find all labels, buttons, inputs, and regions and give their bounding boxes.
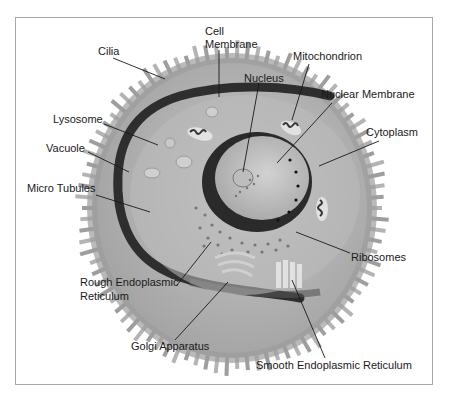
label-vacuole: Vacuole: [46, 142, 85, 155]
label-cell-membrane-line1: Cell: [205, 25, 224, 38]
vacuole-3: [206, 107, 218, 117]
label-ribosomes: Ribosomes: [351, 251, 406, 264]
label-cilia: Cilia: [98, 45, 119, 58]
cell-illustration: [0, 0, 450, 402]
lysosome: [165, 138, 175, 148]
label-micro-tubules: Micro Tubules: [27, 182, 95, 195]
label-rough-er-line2: Reticulum: [80, 290, 129, 303]
label-rough-er-line1: Rough Endoplasmic: [80, 276, 178, 289]
label-nucleus: Nucleus: [244, 72, 284, 85]
mitochondrion-3: [316, 197, 328, 221]
vacuole-2: [144, 168, 160, 178]
label-cytoplasm: Cytoplasm: [366, 126, 418, 139]
label-smooth-er: Smooth Endoplasmic Reticulum: [256, 359, 412, 372]
label-cell-membrane-line2: Membrane: [205, 38, 258, 51]
label-mitochondrion: Mitochondrion: [293, 50, 362, 63]
vacuole-1: [176, 156, 192, 168]
nucleus-body: [215, 136, 309, 220]
label-lysosome: Lysosome: [53, 113, 103, 126]
label-nuclear-membrane: Nuclear Membrane: [321, 88, 415, 101]
label-golgi-apparatus: Golgi Apparatus: [131, 340, 209, 353]
